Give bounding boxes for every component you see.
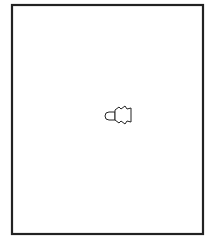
jagged-head (115, 106, 131, 124)
capsule-icon (105, 112, 115, 120)
comet-diagram (0, 0, 212, 243)
comet-head (105, 106, 131, 124)
